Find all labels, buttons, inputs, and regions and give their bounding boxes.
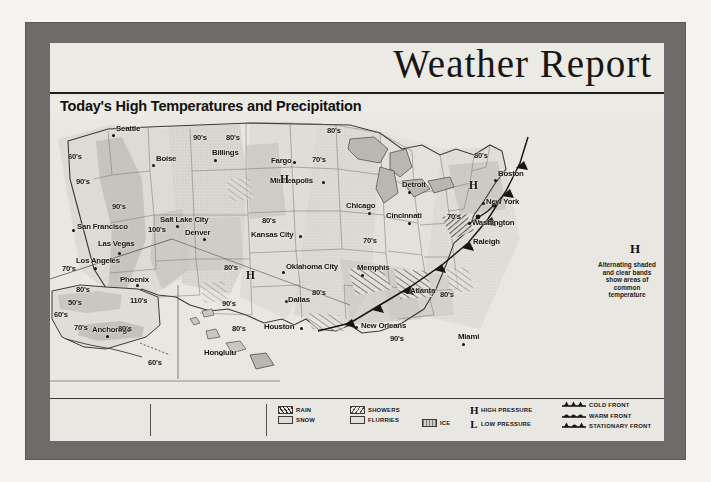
legend-label-cold-front: COLD FRONT [589, 402, 630, 408]
legend-label-warm-front: WARM FRONT [589, 413, 632, 419]
legend-label-ice: ICE [440, 420, 450, 426]
temperature-label: 70's [62, 265, 76, 274]
temperature-label: 90's [76, 178, 90, 187]
city-label: Memphis [357, 264, 389, 273]
legend-label-showers: SHOWERS [368, 407, 400, 413]
temperature-label: 80's [118, 325, 132, 334]
legend-precip-col1: RAIN SNOW [278, 406, 315, 424]
city-dot [112, 134, 115, 137]
legend-label-low-pressure: LOW PRESSURE [481, 421, 531, 427]
temperature-label: 90's [222, 300, 236, 309]
city-label: Honolulu [204, 349, 236, 358]
city-dot [355, 326, 358, 329]
city-label: Boston [498, 170, 524, 179]
city-label: Fargo [271, 157, 292, 166]
temperature-label: 90's [112, 203, 126, 212]
city-label: Atlanta [410, 287, 435, 296]
city-label: Las Vegas [98, 240, 134, 249]
legend-item-cold-front: COLD FRONT [562, 401, 651, 409]
weather-map-page: Weather Report Today's High Temperatures… [50, 43, 664, 441]
city-dot [468, 222, 471, 225]
temperature-label: 70's [363, 237, 377, 246]
temperature-label: 80's [474, 152, 488, 161]
temperature-label: 80's [76, 286, 90, 295]
legend-fronts-col: COLD FRONT WARM FRONT [562, 401, 651, 430]
city-dot [214, 159, 217, 162]
city-dot [482, 202, 485, 205]
low-pressure-icon: L [470, 418, 478, 430]
page-title: Weather Report [393, 43, 652, 86]
city-dot [368, 212, 371, 215]
subtitle-bar: Today's High Temperatures and Precipitat… [50, 96, 664, 120]
temperature-label: 70's [447, 213, 461, 222]
high-pressure-icon: H [470, 404, 478, 416]
legend-item-stationary-front: STATIONARY FRONT [562, 422, 651, 430]
city-dot [470, 247, 473, 250]
temperature-label: 90's [193, 134, 207, 143]
city-label: New York [486, 198, 519, 207]
flurries-swatch [350, 416, 365, 424]
city-label: Cincinnati [386, 212, 422, 221]
legend-item-high-pressure: H HIGH PRESSURE [470, 404, 532, 416]
city-label: Oklahoma City [286, 263, 338, 272]
poster-frame: Weather Report Today's High Temperatures… [25, 22, 686, 460]
city-dot [72, 229, 75, 232]
temperature-label: 60's [54, 311, 68, 320]
showers-swatch [350, 406, 365, 414]
city-label: Raleigh [473, 238, 500, 247]
legend-label-flurries: FLURRIES [368, 417, 399, 423]
temperature-label: 60's [68, 153, 82, 162]
legend-label-stationary-front: STATIONARY FRONT [589, 423, 651, 429]
city-dot [299, 235, 302, 238]
temperature-label: 80's [440, 291, 454, 300]
city-dot [300, 327, 303, 330]
legend-divider-right [266, 404, 267, 436]
cold-front-icon [562, 401, 586, 409]
legend-item-snow: SNOW [278, 416, 315, 424]
city-dot [408, 222, 411, 225]
city-dot [322, 181, 325, 184]
city-dot [203, 238, 206, 241]
city-dot [106, 335, 109, 338]
legend-item-warm-front: WARM FRONT [562, 412, 651, 420]
pressure-center-symbol: H [280, 175, 289, 184]
side-high-pressure-symbol: H [630, 241, 640, 257]
legend-item-showers: SHOWERS [350, 406, 400, 414]
city-label: Dallas [288, 296, 310, 305]
city-dot [282, 271, 285, 274]
temperature-label: 80's [226, 134, 240, 143]
legend-pressure-col: H HIGH PRESSURE L LOW PRESSURE [470, 404, 532, 430]
masthead: Weather Report [50, 43, 664, 94]
temperature-label: 80's [232, 325, 246, 334]
stationary-front-icon [562, 422, 586, 430]
snow-swatch [278, 416, 293, 424]
us-weather-map: SeattleBoiseBillingsFargoMinneapolisDetr… [50, 119, 664, 399]
temperature-label: 50's [68, 299, 82, 308]
city-label: Seattle [116, 125, 140, 134]
city-dot [361, 274, 364, 277]
temperature-label: 90's [390, 335, 404, 344]
city-dot [293, 161, 296, 164]
city-label: Chicago [346, 202, 375, 211]
city-label: Salt Lake City [160, 216, 208, 225]
legend-label-high-pressure: HIGH PRESSURE [481, 407, 532, 413]
city-label: Billings [212, 149, 239, 158]
city-dot [152, 164, 155, 167]
legend-precip-col3: ICE [422, 419, 450, 427]
band-explanation-note: Alternating shaded and clear bands show … [596, 261, 658, 299]
city-label: Los Angeles [76, 257, 120, 266]
temperature-label: 60's [148, 359, 162, 368]
subtitle: Today's High Temperatures and Precipitat… [60, 98, 361, 114]
city-label: Kansas City [251, 231, 293, 240]
map-legend: RAIN SNOW SHOWERS FLURRIES [50, 398, 664, 441]
city-dot [462, 343, 465, 346]
city-label: Denver [185, 229, 210, 238]
temperature-label: 80's [312, 289, 326, 298]
city-label: San Francisco [77, 223, 128, 232]
city-label: Houston [264, 323, 294, 332]
legend-precip-col2: SHOWERS FLURRIES [350, 406, 400, 424]
legend-divider-left [150, 404, 151, 436]
ice-swatch [422, 419, 437, 427]
legend-item-flurries: FLURRIES [350, 416, 400, 424]
pressure-center-symbol: H [246, 271, 255, 280]
